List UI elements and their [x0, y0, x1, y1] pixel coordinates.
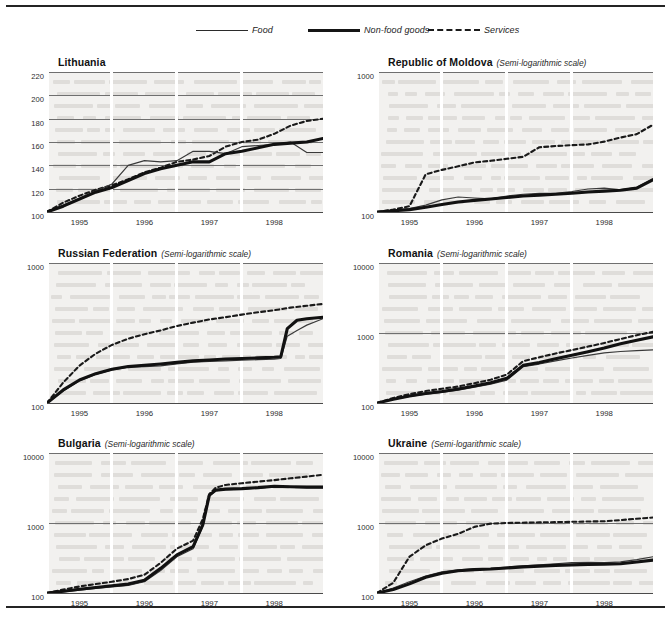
series-layer — [47, 72, 323, 212]
legend-label-services: Services — [484, 25, 519, 35]
plot-area — [47, 263, 323, 403]
panel-scale-note: (Semi-logarithmic scale) — [161, 249, 251, 259]
x-axis-tick-label: 1995 — [71, 218, 88, 227]
plot-area — [377, 453, 653, 593]
panel-scale-note: (Semi-logarithmic scale) — [431, 439, 521, 449]
panel-title-text: Republic of Moldova — [388, 56, 493, 68]
series-line-services — [47, 119, 323, 212]
x-axis-tick-label: 1997 — [201, 409, 218, 418]
chart-panel-republic-of-moldova: Republic of Moldova(Semi-logarithmic sca… — [344, 56, 669, 244]
x-axis-tick-label: 1998 — [266, 599, 283, 608]
x-axis-tick-label: 1995 — [71, 599, 88, 608]
panel-title-text: Lithuania — [58, 56, 106, 68]
panel-title: Russian Federation(Semi-logarithmic scal… — [58, 247, 251, 259]
series-line-non-food-goods — [377, 337, 653, 403]
panel-title: Romania(Semi-logarithmic scale) — [388, 247, 527, 259]
x-axis-tick-label: 1997 — [201, 599, 218, 608]
x-axis-tick-label: 1998 — [266, 218, 283, 227]
series-line-food — [47, 487, 323, 593]
x-axis-tick-label: 1996 — [466, 409, 483, 418]
x-axis-tick-label: 1998 — [266, 409, 283, 418]
x-axis-tick-label: 1996 — [136, 218, 153, 227]
legend-item-non-food-goods: Non-food goods — [308, 25, 429, 35]
x-axis-tick-label: 1997 — [531, 409, 548, 418]
x-axis-line — [377, 403, 653, 404]
chart-panel-russian-federation: Russian Federation(Semi-logarithmic scal… — [14, 247, 339, 435]
panel-title: Bulgaria(Semi-logarithmic scale) — [58, 437, 195, 449]
x-axis-tick-label: 1996 — [466, 218, 483, 227]
panel-title-text: Russian Federation — [58, 247, 157, 259]
page-rule-top — [6, 5, 665, 7]
x-axis-tick-label: 1995 — [401, 409, 418, 418]
x-axis-tick-label: 1998 — [596, 409, 613, 418]
series-layer — [377, 72, 653, 212]
panel-title-text: Bulgaria — [58, 437, 101, 449]
plot-area — [47, 72, 323, 212]
thick-line-swatch-icon — [308, 29, 360, 32]
x-axis-tick-label: 1996 — [466, 599, 483, 608]
plot-area — [377, 72, 653, 212]
panel-scale-note: (Semi-logarithmic scale) — [105, 439, 195, 449]
x-axis-line — [377, 212, 653, 213]
legend-label-non-food-goods: Non-food goods — [364, 25, 429, 35]
x-axis-tick-label: 1995 — [401, 218, 418, 227]
series-line-non-food-goods — [377, 180, 653, 212]
x-axis-tick-label: 1996 — [136, 409, 153, 418]
series-line-non-food-goods — [47, 139, 323, 213]
x-axis-tick-label: 1997 — [201, 218, 218, 227]
chart-panel-bulgaria: Bulgaria(Semi-logarithmic scale)10010001… — [14, 437, 339, 625]
series-line-services — [377, 125, 653, 212]
panel-title: Ukraine(Semi-logarithmic scale) — [388, 437, 521, 449]
chart-panel-romania: Romania(Semi-logarithmic scale)100100010… — [344, 247, 669, 435]
x-axis-line — [377, 593, 653, 594]
legend-item-services: Services — [428, 25, 519, 35]
series-line-non-food-goods — [47, 486, 323, 593]
line-swatch-icon — [196, 30, 248, 31]
series-line-food — [47, 142, 323, 212]
x-axis-tick-label: 1996 — [136, 599, 153, 608]
chart-panel-lithuania: Lithuania1001201401601802002201995199619… — [14, 56, 339, 244]
series-line-services — [47, 475, 323, 593]
chart-legend: Food Non-food goods Services — [0, 24, 671, 42]
plot-area — [47, 453, 323, 593]
series-layer — [377, 453, 653, 593]
dashed-line-swatch-icon — [428, 29, 480, 31]
x-axis-tick-label: 1997 — [531, 218, 548, 227]
panel-title-text: Ukraine — [388, 437, 427, 449]
series-line-services — [377, 332, 653, 403]
plot-area — [377, 263, 653, 403]
panel-title: Lithuania — [58, 56, 106, 68]
series-line-food — [377, 557, 653, 593]
x-axis-line — [47, 212, 323, 213]
x-axis-tick-label: 1998 — [596, 218, 613, 227]
x-axis-tick-label: 1997 — [531, 599, 548, 608]
series-layer — [47, 453, 323, 593]
x-axis-tick-label: 1995 — [71, 409, 88, 418]
panel-title: Republic of Moldova(Semi-logarithmic sca… — [388, 56, 586, 68]
series-line-non-food-goods — [377, 560, 653, 593]
series-layer — [377, 263, 653, 403]
x-axis-line — [47, 403, 323, 404]
panel-scale-note: (Semi-logarithmic scale) — [497, 58, 587, 68]
legend-label-food: Food — [252, 25, 273, 35]
x-axis-tick-label: 1998 — [596, 599, 613, 608]
x-axis-line — [47, 593, 323, 594]
series-layer — [47, 263, 323, 403]
panel-title-text: Romania — [388, 247, 433, 259]
chart-panel-ukraine: Ukraine(Semi-logarithmic scale)100100010… — [344, 437, 669, 625]
legend-item-food: Food — [196, 25, 273, 35]
x-axis-tick-label: 1995 — [401, 599, 418, 608]
panel-scale-note: (Semi-logarithmic scale) — [437, 249, 527, 259]
